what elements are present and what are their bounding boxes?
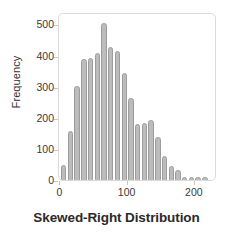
y-tick-mark [54, 57, 58, 58]
plot-area [58, 13, 216, 181]
y-tick-label: 100 [28, 144, 54, 155]
histogram-bar [128, 98, 133, 181]
histogram-bar [202, 177, 207, 181]
histogram-bar [108, 47, 113, 181]
histogram-bar [195, 177, 200, 181]
histogram-bar [148, 120, 153, 181]
histogram-bar [115, 51, 120, 181]
chart-title: Skewed-Right Distribution [0, 210, 233, 225]
x-tick-label: 200 [174, 186, 214, 198]
histogram-bar [81, 59, 86, 181]
y-axis-title: Frequency [10, 42, 22, 122]
histogram-bar [61, 165, 66, 181]
y-tick-label: 400 [28, 51, 54, 62]
y-tick-mark [54, 119, 58, 120]
y-tick-mark [54, 25, 58, 26]
histogram-bar [182, 177, 187, 181]
histogram-bar [142, 123, 147, 181]
x-tick-label: 0 [39, 186, 79, 198]
x-tick-mark [194, 181, 195, 185]
histogram-bar [155, 137, 160, 181]
y-tick-mark [54, 88, 58, 89]
histogram-bar [169, 166, 174, 181]
histogram-bars [59, 14, 215, 180]
histogram-bar [68, 131, 73, 181]
histogram-bar [101, 23, 106, 181]
histogram-bar [74, 86, 79, 181]
histogram-bar [135, 124, 140, 181]
histogram-bar [122, 73, 127, 181]
y-axis-tick-labels: 0100200300400500 [26, 0, 54, 239]
y-tick-label: 300 [28, 82, 54, 93]
x-tick-label: 100 [107, 186, 147, 198]
y-tick-label: 200 [28, 113, 54, 124]
x-tick-mark [59, 181, 60, 185]
y-tick-label: 500 [28, 19, 54, 30]
y-tick-label: 0 [28, 175, 54, 186]
y-tick-mark [54, 181, 58, 182]
x-tick-mark [127, 181, 128, 185]
histogram-bar [88, 58, 93, 181]
histogram-bar [95, 53, 100, 181]
y-tick-mark [54, 150, 58, 151]
histogram-figure: Frequency 0100200300400500 Skewed-Right … [0, 0, 233, 239]
histogram-bar [162, 156, 167, 181]
histogram-bar [175, 170, 180, 181]
